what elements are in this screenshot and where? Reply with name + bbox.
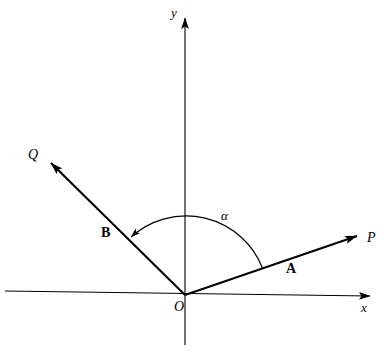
vector-a-line: [185, 236, 357, 295]
y-axis-label: y: [171, 6, 177, 19]
vector-angle-diagram: y x O P Q A B α: [0, 0, 390, 357]
vector-b-line: [51, 163, 185, 295]
diagram-canvas: [0, 0, 390, 357]
point-label-p: P: [367, 231, 376, 245]
point-label-q: Q: [28, 148, 38, 162]
vector-label-b: B: [101, 226, 110, 240]
angle-label-alpha: α: [221, 209, 228, 222]
vector-label-a: A: [286, 262, 296, 276]
origin-label: O: [174, 300, 184, 314]
x-axis-label: x: [361, 301, 367, 314]
